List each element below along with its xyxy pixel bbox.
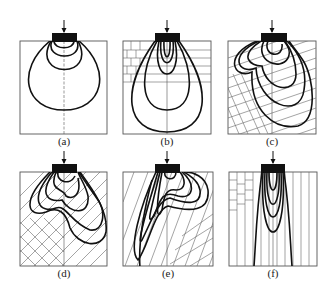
load-block (52, 164, 77, 173)
panel-label-e: (e) (148, 267, 188, 279)
panel-label-b: (b) (147, 135, 187, 147)
panel-f (229, 151, 317, 266)
load-arrow-icon (165, 151, 170, 164)
panel-a (20, 20, 107, 134)
load-arrow-icon (271, 151, 276, 164)
load-arrow-icon (62, 151, 67, 164)
panel-label-a: (a) (44, 135, 84, 147)
panel-e (123, 151, 244, 268)
load-block (155, 33, 180, 42)
panel-label-f: (f) (253, 267, 293, 279)
vertical-bedding (229, 172, 309, 266)
panel-b (123, 20, 211, 134)
stress-isobars (134, 172, 208, 268)
panel-label-c: (c) (252, 135, 292, 147)
load-block (52, 33, 77, 42)
stress-isobars (235, 41, 313, 127)
diagram-canvas (0, 0, 332, 298)
load-block (261, 164, 285, 173)
load-block (155, 164, 180, 173)
panel-label-d: (d) (44, 267, 84, 279)
load-block (261, 33, 287, 42)
load-arrow-icon (165, 20, 170, 33)
load-arrow-icon (270, 20, 275, 33)
load-arrow-icon (62, 20, 67, 33)
figure: (a) (b) (c) (d) (e) (f) (0, 0, 332, 298)
